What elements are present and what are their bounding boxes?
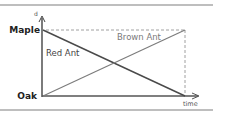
brown-ant-label: Brown Ant (117, 32, 162, 42)
maple-label: Maple (9, 25, 40, 35)
y-axis-label: d (34, 10, 38, 17)
distance-time-diagram: d Maple Oak time Red Ant Brown Ant (0, 0, 225, 116)
oak-label: Oak (17, 91, 38, 101)
x-axis-label: time (183, 100, 198, 108)
red-ant-label: Red Ant (46, 48, 80, 58)
